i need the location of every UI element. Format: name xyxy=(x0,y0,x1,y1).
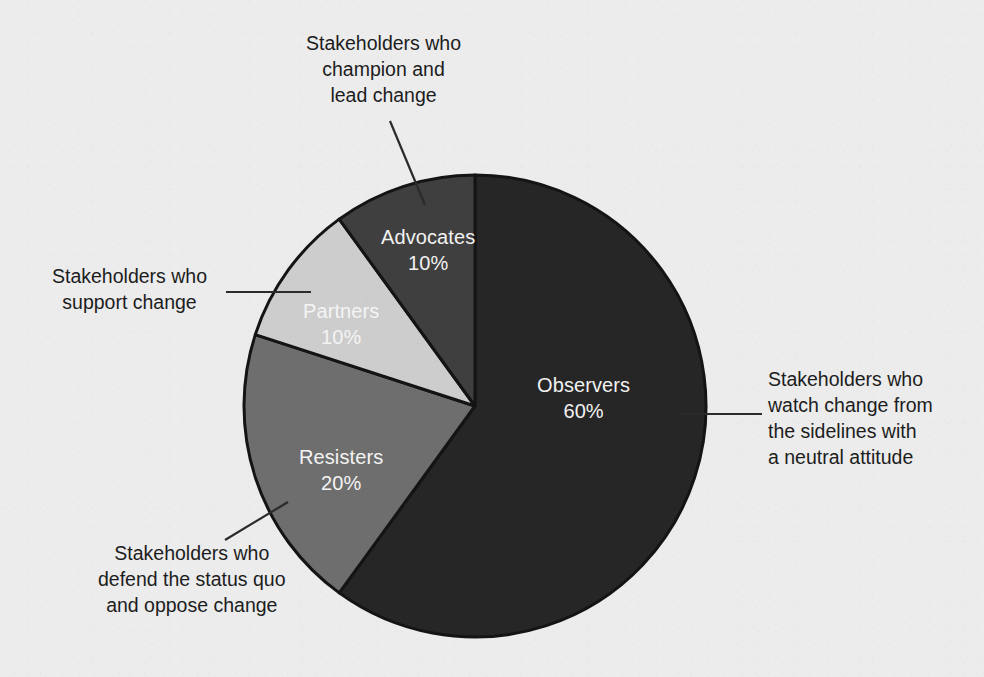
slice-label-resisters-name: Resisters xyxy=(299,444,383,470)
slice-label-advocates: Advocates 10% xyxy=(381,224,475,276)
slice-label-resisters: Resisters 20% xyxy=(299,444,383,496)
slice-label-observers-value: 60% xyxy=(537,398,630,424)
callout-resisters: Stakeholders who defend the status quo a… xyxy=(98,540,286,618)
callout-observers: Stakeholders who watch change from the s… xyxy=(768,366,933,470)
callout-advocates-line-1: Stakeholders who xyxy=(306,30,461,56)
callout-resisters-line-2: defend the status quo xyxy=(98,566,286,592)
callout-partners: Stakeholders who support change xyxy=(52,263,207,315)
slice-label-partners: Partners 10% xyxy=(303,298,379,350)
callout-observers-line-2: watch change from xyxy=(768,392,933,418)
slice-label-resisters-value: 20% xyxy=(299,470,383,496)
callout-advocates-line-3: lead change xyxy=(306,82,461,108)
callout-advocates-line-2: champion and xyxy=(306,56,461,82)
callout-resisters-line-1: Stakeholders who xyxy=(98,540,286,566)
callout-observers-line-1: Stakeholders who xyxy=(768,366,933,392)
slice-label-partners-name: Partners xyxy=(303,298,379,324)
pie-chart-figure: Observers 60% Resisters 20% Partners 10%… xyxy=(0,0,984,677)
slice-label-observers-name: Observers xyxy=(537,372,630,398)
callout-resisters-line-3: and oppose change xyxy=(98,592,286,618)
slice-label-advocates-value: 10% xyxy=(381,250,475,276)
slice-label-advocates-name: Advocates xyxy=(381,224,475,250)
callout-partners-line-2: support change xyxy=(52,289,207,315)
callout-partners-line-1: Stakeholders who xyxy=(52,263,207,289)
callout-observers-line-3: the sidelines with xyxy=(768,418,933,444)
slice-label-observers: Observers 60% xyxy=(537,372,630,424)
callout-advocates: Stakeholders who champion and lead chang… xyxy=(306,30,461,108)
slice-label-partners-value: 10% xyxy=(303,324,379,350)
callout-observers-line-4: a neutral attitude xyxy=(768,444,933,470)
